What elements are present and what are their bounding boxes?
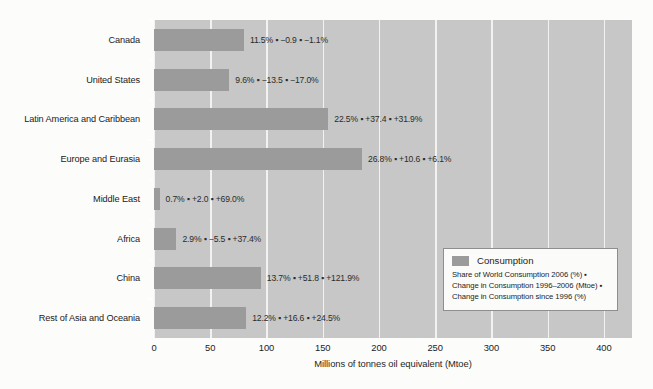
y-axis-tick	[148, 298, 153, 299]
bar-row[interactable]: 11.5% ▪ −0.9 ▪ −1.1%	[154, 20, 632, 60]
x-tick-label-150: 150	[315, 342, 330, 353]
x-tick-label-300: 300	[484, 342, 499, 353]
y-axis-label-rest-of-asia-and-oceania: Rest of Asia and Oceania	[39, 298, 140, 338]
bar-row[interactable]: 0.7% ▪ +2.0 ▪ +69.0%	[154, 179, 632, 219]
bar-value-label: 13.7% ▪ +51.8 ▪ +121.9%	[267, 273, 359, 283]
y-axis-label-latin-america-and-caribbean: Latin America and Caribbean	[24, 100, 140, 140]
bar-row[interactable]: 9.6% ▪ −13.5 ▪ −17.0%	[154, 60, 632, 100]
bar[interactable]	[154, 228, 176, 250]
y-axis-tick	[148, 100, 153, 101]
legend-description: Share of World Consumption 2006 (%) ▪ Ch…	[452, 270, 609, 303]
bar-value-label: 2.9% ▪ −5.5 ▪ +37.4%	[182, 234, 261, 244]
y-axis-label-europe-and-eurasia: Europe and Eurasia	[61, 139, 140, 179]
x-tick-label-0: 0	[151, 342, 156, 353]
x-axis-title: Millions of tonnes oil equivalent (Mtoe)	[154, 358, 632, 369]
y-axis-label-canada: Canada	[108, 20, 140, 60]
x-tick-label-400: 400	[596, 342, 611, 353]
bar-value-label: 26.8% ▪ +10.6 ▪ +6.1%	[368, 154, 451, 164]
x-tick-label-100: 100	[259, 342, 274, 353]
bar-value-label: 9.6% ▪ −13.5 ▪ −17.0%	[235, 75, 318, 85]
y-axis-tick	[148, 259, 153, 260]
bar[interactable]	[154, 148, 362, 170]
bar-value-label: 11.5% ▪ −0.9 ▪ −1.1%	[250, 35, 328, 45]
bar[interactable]	[154, 307, 246, 329]
bar-value-label: 0.7% ▪ +2.0 ▪ +69.0%	[166, 194, 245, 204]
bar[interactable]	[154, 188, 160, 210]
y-axis-tick	[148, 60, 153, 61]
bar[interactable]	[154, 29, 244, 51]
y-axis-category-labels: CanadaUnited StatesLatin America and Car…	[0, 20, 148, 338]
chart-figure: CanadaUnited StatesLatin America and Car…	[0, 0, 653, 389]
legend-box: Consumption Share of World Consumption 2…	[443, 248, 618, 311]
bar-row[interactable]: 26.8% ▪ +10.6 ▪ +6.1%	[154, 139, 632, 179]
y-axis-label-middle-east: Middle East	[93, 179, 140, 219]
bar[interactable]	[154, 267, 261, 289]
y-axis-tick	[148, 179, 153, 180]
y-axis-label-china: China	[116, 259, 140, 299]
bar-value-label: 12.2% ▪ +16.6 ▪ +24.5%	[252, 313, 340, 323]
bar-row[interactable]: 22.5% ▪ +37.4 ▪ +31.9%	[154, 100, 632, 140]
legend-color-swatch-consumption	[452, 256, 469, 266]
x-tick-label-250: 250	[428, 342, 443, 353]
bar[interactable]	[154, 108, 328, 130]
bar-value-label: 22.5% ▪ +37.4 ▪ +31.9%	[334, 114, 422, 124]
y-axis-tick	[148, 219, 153, 220]
legend-header: Consumption	[452, 255, 609, 266]
y-axis-label-united-states: United States	[86, 60, 140, 100]
bar[interactable]	[154, 69, 229, 91]
y-axis-tick	[148, 139, 153, 140]
x-tick-label-350: 350	[540, 342, 555, 353]
legend-series-label: Consumption	[477, 255, 534, 266]
y-axis-label-africa: Africa	[117, 219, 140, 259]
x-tick-label-50: 50	[205, 342, 215, 353]
y-axis-tick	[148, 20, 153, 21]
x-tick-label-200: 200	[371, 342, 386, 353]
